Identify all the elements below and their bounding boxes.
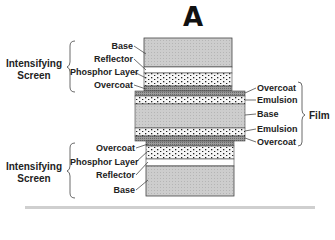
- footer-divider: [25, 206, 315, 209]
- film-bottom-emulsion-label: Emulsion: [257, 124, 298, 134]
- bottom-phosphor-layer: [146, 146, 234, 159]
- top-base-label: Base: [80, 41, 133, 51]
- film-bottom-overcoat-label: Overcoat: [257, 137, 296, 147]
- top-reflector-label: Reflector: [80, 54, 133, 64]
- top-reflector-layer: [144, 67, 232, 73]
- film-brace: [298, 82, 305, 146]
- top-screen: [144, 38, 232, 91]
- bottom-reflector-label: Reflector: [80, 170, 135, 180]
- bottom-screen-group-label: Intensifying Screen: [4, 161, 64, 185]
- bottom-base-label: Base: [80, 185, 135, 195]
- film-top-emulsion: [135, 96, 245, 104]
- bottom-base-layer: [146, 166, 234, 196]
- bottom-overcoat-layer: [146, 141, 234, 146]
- top-overcoat-label: Overcoat: [80, 80, 133, 90]
- film-base-label: Base: [257, 109, 279, 119]
- bottom-phosphor-label: Phosphor Layer: [70, 157, 135, 167]
- bottom-reflector-layer: [146, 159, 234, 166]
- film-top-overcoat-label: Overcoat: [257, 83, 296, 93]
- film-base: [135, 104, 245, 128]
- film: [135, 91, 245, 141]
- film-group-label: Film: [309, 110, 335, 122]
- film-bottom-overcoat: [135, 136, 245, 141]
- bottom-screen: [146, 141, 234, 196]
- film-top-emulsion-label: Emulsion: [257, 95, 298, 105]
- top-phosphor-label: Phosphor Layer: [70, 67, 133, 77]
- film-bottom-emulsion: [135, 128, 245, 136]
- top-base-layer: [144, 38, 232, 67]
- bottom-screen-brace: [67, 143, 75, 198]
- top-overcoat-layer: [144, 86, 232, 91]
- film-top-overcoat: [135, 91, 245, 96]
- bottom-overcoat-label: Overcoat: [80, 143, 135, 153]
- top-phosphor-layer: [144, 73, 232, 86]
- top-screen-group-label: Intensifying Screen: [4, 58, 64, 82]
